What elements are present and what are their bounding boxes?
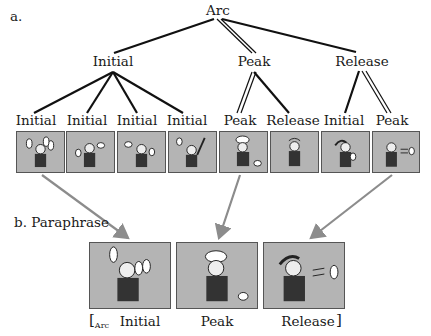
tree-node-release: Release: [335, 55, 388, 69]
section-a-label: a.: [10, 10, 22, 24]
comic-panel-1: [16, 131, 65, 173]
open-bracket: [Arc: [89, 313, 109, 330]
paraphrase-panel-initial: [89, 242, 171, 309]
comic-panel-6: [270, 131, 319, 173]
arc-subscript: Arc: [95, 321, 109, 330]
arc-diagram: a. Arc Initial Peak Release Initial Init…: [0, 0, 431, 336]
tree-root-arc: Arc: [206, 4, 230, 18]
comic-panel-2: [66, 131, 115, 173]
tree-leaf: Initial: [117, 114, 157, 128]
comic-panel-3: [117, 131, 166, 173]
tree-leaf: Release: [266, 114, 319, 128]
comic-panel-8: [372, 131, 420, 173]
paraphrase-panel-peak: [176, 242, 258, 309]
tree-leaf: Initial: [167, 114, 207, 128]
comic-panel-4: [168, 131, 217, 173]
paraphrase-label-initial: Initial: [120, 315, 160, 329]
close-bracket: ]: [336, 313, 342, 328]
comic-panel-5: [219, 131, 268, 173]
tree-leaf: Peak: [224, 114, 257, 128]
comic-panel-7: [321, 131, 370, 173]
section-b-label: b. Paraphrase: [14, 216, 109, 230]
tree-node-peak: Peak: [238, 55, 271, 69]
tree-leaf: Initial: [67, 114, 107, 128]
paraphrase-panel-release: [263, 242, 345, 309]
paraphrase-label-peak: Peak: [201, 315, 234, 329]
tree-leaf: Peak: [376, 114, 409, 128]
tree-node-initial: Initial: [93, 55, 133, 69]
paraphrase-label-release: Release: [281, 315, 334, 329]
tree-leaf: Initial: [16, 114, 56, 128]
tree-leaf: Initial: [324, 114, 364, 128]
